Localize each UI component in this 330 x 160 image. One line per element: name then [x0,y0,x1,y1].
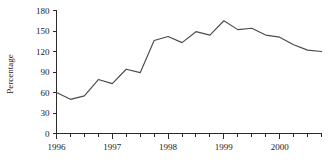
y-axis: 0306090120150180 [36,6,57,139]
x-axis: 19961997199819992000 [48,134,322,152]
x-tick-label: 1997 [103,142,122,152]
y-axis-tick-marks [53,11,57,134]
x-tick-label: 1996 [48,142,67,152]
y-tick-label: 180 [36,6,50,16]
series-line-percentage [57,21,322,100]
x-axis-tick-labels: 19961997199819992000 [48,142,290,152]
y-tick-label: 30 [41,108,51,118]
x-tick-label: 1998 [159,142,178,152]
y-tick-label: 120 [36,47,50,57]
x-axis-tick-marks [57,134,322,139]
y-tick-label: 150 [36,26,50,36]
y-axis-title: Percentage [5,54,15,93]
x-tick-label: 2000 [271,142,290,152]
line-chart-figure: 0306090120150180 19961997199819992000 Pe… [0,0,330,160]
y-axis-tick-labels: 0306090120150180 [36,6,50,139]
data-series-group [57,21,322,100]
x-tick-label: 1999 [215,142,234,152]
y-tick-label: 0 [45,129,50,139]
chart-canvas: 0306090120150180 19961997199819992000 Pe… [0,0,330,160]
y-tick-label: 90 [41,67,51,77]
y-tick-label: 60 [41,88,51,98]
